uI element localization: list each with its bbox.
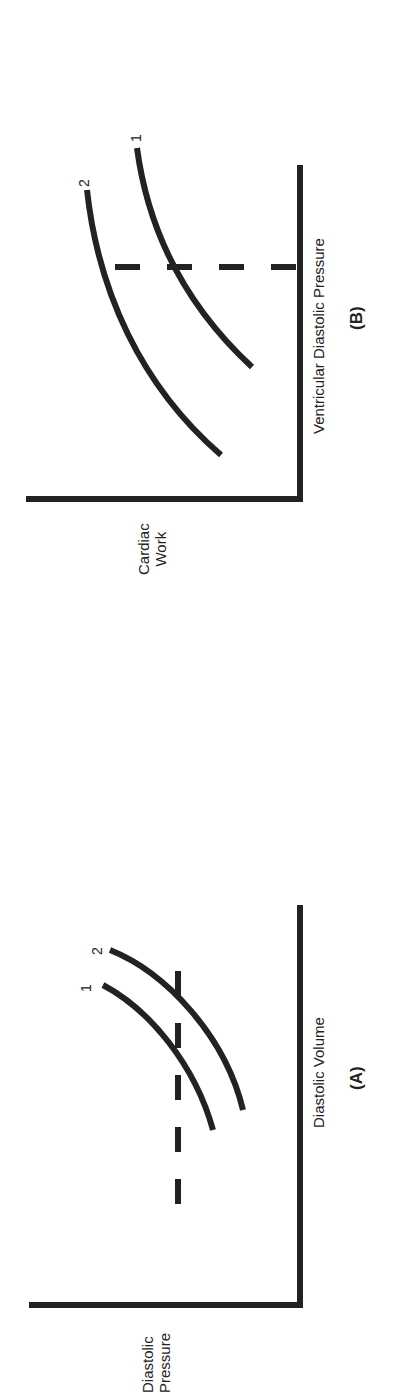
panel-a-curve-2-label: 2 bbox=[89, 947, 105, 955]
panel-b-curve-1 bbox=[137, 148, 252, 367]
panel-b-curve-2-label: 2 bbox=[76, 179, 92, 187]
panel-a-curve-1-label: 1 bbox=[78, 984, 94, 992]
panel-b-y-label-line2: Work bbox=[152, 523, 169, 575]
panel-a-y-axis-label: Diastolic Pressure bbox=[139, 1333, 173, 1393]
panel-a-lineart bbox=[29, 905, 303, 1308]
panel-b-x-axis-label: Ventricular Diastolic Pressure bbox=[310, 238, 327, 434]
panel-b-curve-1-label: 1 bbox=[128, 134, 144, 142]
panel-b-y-label-line1: Cardiac bbox=[135, 523, 152, 575]
panel-a-x-axis-label: Diastolic Volume bbox=[310, 1017, 327, 1128]
panel-a-y-label-line2: Pressure bbox=[156, 1333, 173, 1393]
panel-a-title: (A) bbox=[348, 1066, 365, 1090]
panel-b-title: (B) bbox=[348, 306, 365, 330]
panel-b-curve-2 bbox=[87, 190, 221, 455]
panel-a-y-label-line1: Diastolic bbox=[139, 1333, 156, 1393]
figure-lineart bbox=[0, 0, 397, 1393]
panel-a-curve-1 bbox=[103, 985, 213, 1130]
panel-b-lineart bbox=[26, 148, 303, 502]
panel-b-y-axis-label: Cardiac Work bbox=[135, 523, 169, 575]
